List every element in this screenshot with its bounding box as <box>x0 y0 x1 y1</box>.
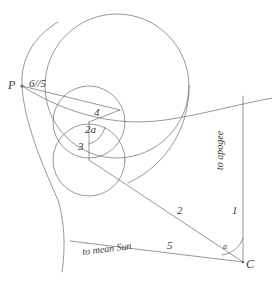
label-point-p: P <box>8 79 15 91</box>
point-C-marker <box>242 261 245 264</box>
to-mean-sun-ray <box>70 241 86 243</box>
label-radius-4: 4 <box>94 107 100 118</box>
label-radius-3: 3 <box>78 141 84 152</box>
diagram-vector-layer <box>0 0 272 281</box>
label-to-apogee: to apogee <box>215 131 225 170</box>
equant-arc-bottom <box>22 86 64 272</box>
label-radius-1: 1 <box>232 205 238 216</box>
deferent-large-circle <box>45 14 189 158</box>
point-P-marker <box>20 84 23 87</box>
label-radius-2: 2 <box>177 205 183 216</box>
label-radius-5: 5 <box>167 240 173 251</box>
label-6-parallel-5: 6//5 <box>29 78 46 89</box>
label-angle-a: a <box>223 243 227 251</box>
label-angle-2a: 2a <box>85 124 96 135</box>
deferent-arc-lower-right <box>128 86 189 183</box>
diagram-canvas: P 6//5 4 2a 3 2 1 5 a C to apogee to mea… <box>0 0 272 281</box>
eccentric-arc-right <box>22 86 272 122</box>
label-point-c: C <box>246 258 254 270</box>
